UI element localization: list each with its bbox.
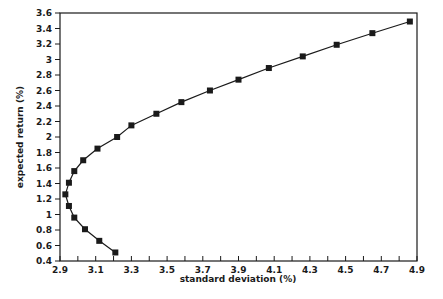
data-point-marker [114, 134, 120, 140]
data-point-marker [128, 122, 134, 128]
y-tick-label: 3.6 [36, 8, 52, 18]
data-point-marker [80, 157, 86, 163]
data-point-marker [266, 65, 272, 71]
y-tick-label: 2.6 [36, 86, 52, 96]
y-tick-label: 1.6 [36, 163, 52, 173]
y-axis-title: expected return (%) [15, 86, 25, 188]
data-point-marker [66, 203, 72, 209]
y-axis-ticks [55, 13, 60, 261]
y-tick-label: 2 [46, 132, 52, 142]
y-tick-label: 3.4 [36, 24, 52, 34]
data-point-marker [236, 77, 242, 83]
data-point-marker [153, 111, 159, 117]
x-axis-title: standard deviation (%) [180, 274, 297, 284]
y-tick-label: 3.2 [36, 39, 52, 49]
x-tick-label: 4.7 [373, 265, 389, 275]
data-point-marker [94, 146, 100, 152]
data-point-marker [71, 215, 77, 221]
x-tick-label: 3.1 [88, 265, 104, 275]
x-tick-label: 4.9 [409, 265, 425, 275]
y-tick-label: 1.8 [36, 148, 52, 158]
data-point-marker [62, 191, 68, 197]
y-tick-label: 2.4 [36, 101, 52, 111]
data-point-marker [96, 238, 102, 244]
data-point-marker [300, 53, 306, 59]
x-tick-label: 2.9 [52, 265, 68, 275]
data-point-marker [112, 249, 118, 255]
y-tick-label: 0.8 [36, 225, 52, 235]
x-tick-label: 4.5 [338, 265, 354, 275]
x-tick-label: 4.3 [302, 265, 318, 275]
y-axis-tick-labels: 0.40.60.811.21.41.61.822.22.42.62.833.23… [36, 8, 52, 266]
data-point-marker [82, 226, 88, 232]
y-tick-label: 0.4 [36, 256, 52, 266]
x-tick-label: 3.3 [123, 265, 139, 275]
y-tick-label: 1 [46, 210, 52, 220]
data-point-marker [178, 99, 184, 105]
y-tick-label: 2.8 [36, 70, 52, 80]
y-tick-label: 1.4 [36, 179, 52, 189]
plot-area [60, 13, 417, 261]
data-point-marker [66, 180, 72, 186]
x-axis-ticks [60, 256, 417, 261]
data-point-marker [207, 88, 213, 94]
y-tick-label: 0.6 [36, 241, 52, 251]
frontier-chart: 2.93.13.33.53.73.94.14.34.54.74.9 0.40.6… [0, 0, 443, 299]
data-point-marker [407, 19, 413, 25]
x-tick-label: 3.5 [159, 265, 175, 275]
y-tick-label: 2.2 [36, 117, 52, 127]
data-point-marker [369, 30, 375, 36]
y-tick-label: 3 [46, 55, 52, 65]
data-point-marker [334, 42, 340, 48]
y-tick-label: 1.2 [36, 194, 52, 204]
data-point-marker [71, 168, 77, 174]
